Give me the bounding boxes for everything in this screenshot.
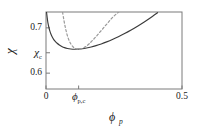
x-tick-label-0: 0	[44, 91, 49, 101]
x-tick-label-2-base: 0.5	[176, 91, 188, 101]
tick-label-layer: 0ϕp,c0.50.7χc0.6	[0, 0, 198, 132]
y-tick-label-2-base: 0.6	[30, 67, 42, 77]
x-tick-label-0-base: 0	[44, 91, 49, 101]
figure-container: χ ϕ p 0ϕp,c0.50.7χc0.6	[0, 0, 198, 132]
x-tick-label-1-sub: p,c	[78, 97, 86, 104]
y-tick-label-2: 0.6	[30, 67, 42, 77]
x-tick-label-2: 0.5	[176, 91, 188, 101]
y-tick-label-0-base: 0.7	[30, 22, 42, 32]
y-tick-label-0: 0.7	[30, 22, 42, 32]
y-tick-label-1: χc	[34, 47, 42, 62]
x-tick-label-1: ϕp,c	[72, 91, 85, 106]
y-tick-label-1-sub: c	[39, 53, 42, 60]
